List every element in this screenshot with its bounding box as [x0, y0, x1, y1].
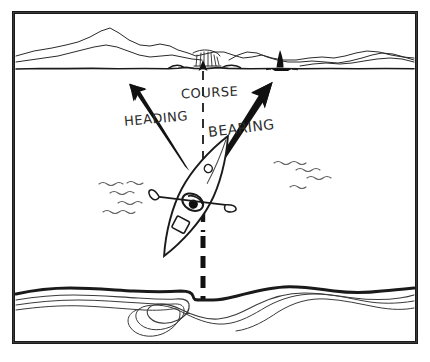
navigation-diagram-illustration [0, 0, 430, 362]
course-label: COURSE [181, 84, 239, 102]
diagram-canvas: HEADING COURSE BEARING [0, 0, 430, 362]
